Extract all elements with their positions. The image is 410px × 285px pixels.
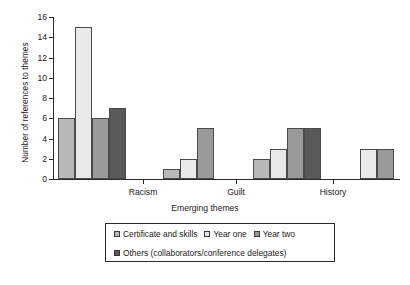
y-axis-tick-label: 0 [42, 174, 47, 184]
y-axis-tick-label: 10 [37, 73, 47, 83]
y-axis-tick-mark [49, 17, 53, 18]
y-axis-tick-mark [49, 159, 53, 160]
bar [92, 118, 109, 179]
x-axis-tick-mark [236, 180, 237, 184]
x-axis-category-label: Racism [129, 187, 158, 197]
bar [180, 159, 197, 179]
x-axis-category-label: Guilt [227, 187, 245, 197]
legend-swatch-icon [114, 231, 120, 237]
legend-item-label: Year one [213, 229, 246, 239]
legend-item[interactable]: Year two [254, 229, 295, 239]
bar [75, 27, 92, 179]
x-axis-tick-mark [333, 180, 334, 184]
bar [163, 169, 180, 179]
legend-item-label: Year two [263, 229, 295, 239]
x-axis-title: Emerging themes [0, 203, 410, 213]
y-axis-tick-mark [49, 78, 53, 79]
plot-area: 0246810121416 RacismGuiltHistoryTrust [53, 17, 400, 180]
legend-row-secondary: Others (collaborators/conference delegat… [106, 243, 334, 262]
bar [197, 128, 214, 179]
y-axis-tick-label: 6 [42, 113, 47, 123]
y-axis-tick-label: 4 [42, 134, 47, 144]
bar [304, 128, 321, 179]
legend-swatch-icon [204, 231, 210, 237]
y-axis-tick-label: 16 [37, 12, 47, 22]
y-axis-tick-label: 8 [42, 93, 47, 103]
bar-chart: Number of references to themes 024681012… [0, 0, 410, 285]
y-axis-tick-label: 14 [37, 32, 47, 42]
legend-item[interactable]: Others (collaborators/conference delegat… [114, 248, 286, 258]
legend-item[interactable]: Year one [204, 229, 246, 239]
legend-item[interactable]: Certificate and skills [114, 229, 197, 239]
y-axis-tick-mark [49, 37, 53, 38]
legend-swatch-icon [254, 231, 260, 237]
bar [253, 159, 270, 179]
y-axis-tick-mark [49, 58, 53, 59]
legend-swatch-icon [114, 250, 120, 256]
legend-item-label: Certificate and skills [123, 229, 197, 239]
y-axis-tick-mark [49, 139, 53, 140]
legend-item-label: Others (collaborators/conference delegat… [123, 248, 286, 258]
bar [287, 128, 304, 179]
y-axis-tick-label: 2 [42, 154, 47, 164]
y-axis-title: Number of references to themes [21, 18, 30, 188]
bar [270, 149, 287, 179]
chart-legend: Certificate and skillsYear oneYear two O… [105, 223, 335, 262]
bar [377, 149, 394, 179]
x-axis-line [53, 179, 400, 180]
y-axis-line [53, 17, 54, 180]
x-axis-tick-mark [143, 180, 144, 184]
bar [58, 118, 75, 179]
y-axis-tick-mark [49, 179, 53, 180]
bar [360, 149, 377, 179]
y-axis-tick-mark [49, 98, 53, 99]
bar [109, 108, 126, 179]
x-axis-category-label: History [320, 187, 347, 197]
legend-row-primary: Certificate and skillsYear oneYear two [106, 224, 334, 243]
y-axis-tick-mark [49, 118, 53, 119]
y-axis-tick-label: 12 [37, 53, 47, 63]
